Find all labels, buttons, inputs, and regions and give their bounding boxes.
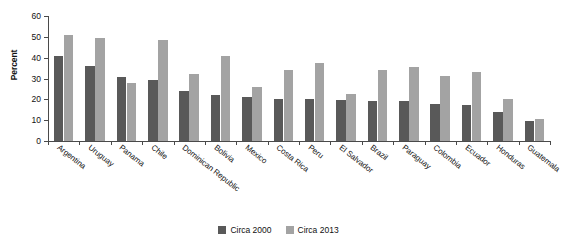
bar-circa-2000 — [462, 105, 472, 141]
chart-legend: Circa 2000Circa 2013 — [0, 225, 557, 235]
bar-circa-2000 — [305, 99, 315, 141]
y-tick-label: 40 — [32, 53, 41, 63]
x-tick-label: Colombia — [432, 143, 464, 171]
bar-circa-2000 — [179, 91, 189, 141]
legend-swatch-icon — [218, 226, 226, 234]
bar-group — [48, 16, 79, 141]
x-tick-label: Brazil — [369, 143, 390, 162]
bar-circa-2000 — [54, 56, 64, 141]
bar-group — [393, 16, 424, 141]
bar-circa-2013 — [503, 99, 513, 141]
legend-item[interactable]: Circa 2000 — [218, 225, 271, 235]
legend-label: Circa 2013 — [298, 225, 339, 235]
bar-circa-2013 — [409, 67, 419, 141]
bar-circa-2000 — [274, 99, 284, 141]
bar-circa-2013 — [284, 70, 294, 141]
bar-circa-2000 — [430, 104, 440, 142]
y-tick-label: 50 — [32, 32, 41, 42]
bar-circa-2013 — [315, 63, 325, 141]
bar-group — [299, 16, 330, 141]
bar-circa-2000 — [493, 112, 503, 141]
bar-circa-2013 — [95, 38, 105, 141]
x-tick-mark — [550, 141, 551, 145]
bar-circa-2013 — [472, 72, 482, 141]
bar-circa-2013 — [378, 70, 388, 141]
bar-circa-2013 — [440, 76, 450, 141]
bar-circa-2000 — [399, 101, 409, 141]
legend-item[interactable]: Circa 2013 — [286, 225, 339, 235]
x-tick-label: Ecuador — [463, 143, 492, 168]
bar-circa-2013 — [221, 56, 231, 141]
y-tick-label: 10 — [32, 115, 41, 125]
bar-group — [205, 16, 236, 141]
x-tick-label: Argentina — [55, 143, 87, 171]
bar-group — [425, 16, 456, 141]
x-tick-label: Honduras — [494, 143, 527, 171]
bar-group — [142, 16, 173, 141]
bar-circa-2013 — [535, 119, 545, 141]
y-tick-label: 20 — [32, 94, 41, 104]
y-axis-title: Percent — [9, 35, 19, 95]
x-tick-label: Mexico — [243, 143, 268, 166]
bar-group — [174, 16, 205, 141]
bar-circa-2013 — [346, 94, 356, 141]
x-tick-label: Dominican Republic — [181, 143, 242, 193]
bar-group — [330, 16, 361, 141]
bar-group — [111, 16, 142, 141]
x-axis-labels: ArgentinaUruguayPanamaChileDominican Rep… — [48, 143, 550, 205]
bar-circa-2000 — [211, 95, 221, 141]
bar-group — [362, 16, 393, 141]
x-tick-label: Uruguay — [87, 143, 116, 168]
bar-group — [79, 16, 110, 141]
bar-group — [519, 16, 550, 141]
y-tick-label: 0 — [36, 136, 41, 146]
bar-circa-2013 — [189, 74, 199, 141]
y-tick-label: 30 — [32, 74, 41, 84]
y-tick-label: 60 — [32, 11, 41, 21]
x-tick-label: Chile — [149, 143, 169, 161]
bar-group — [456, 16, 487, 141]
plot-area: 0102030405060 — [48, 16, 550, 141]
bar-circa-2013 — [158, 40, 168, 141]
legend-swatch-icon — [286, 226, 294, 234]
x-tick-label: Bolivia — [212, 143, 236, 164]
x-tick-label: Panama — [118, 143, 147, 168]
bar-group — [487, 16, 518, 141]
bar-circa-2000 — [148, 80, 158, 141]
x-tick-label: Guatemala — [526, 143, 562, 174]
bar-circa-2000 — [525, 121, 535, 141]
bar-group — [268, 16, 299, 141]
x-tick-label: Paraguay — [400, 143, 432, 171]
x-tick-label: Costa Rica — [275, 143, 311, 174]
bar-circa-2013 — [64, 35, 74, 141]
bar-circa-2000 — [85, 66, 95, 141]
x-tick-label: Peru — [306, 143, 325, 160]
legend-label: Circa 2000 — [230, 225, 271, 235]
bar-circa-2013 — [127, 83, 137, 141]
bar-circa-2000 — [368, 101, 378, 141]
bar-circa-2013 — [252, 87, 262, 141]
bar-circa-2000 — [336, 100, 346, 141]
bar-circa-2000 — [117, 77, 127, 141]
bar-circa-2000 — [242, 97, 252, 141]
bar-group — [236, 16, 267, 141]
